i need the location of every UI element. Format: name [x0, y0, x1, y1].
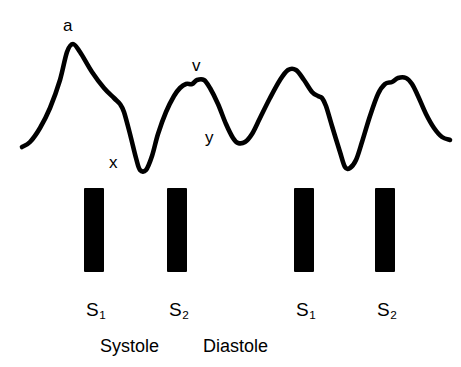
sound-letter: S: [296, 299, 309, 320]
wave-label-y: y: [205, 129, 214, 146]
wave-label-x: x: [109, 154, 118, 171]
heart-sound-bar-s2-first: [167, 188, 187, 272]
sound-letter: S: [169, 299, 182, 320]
sound-letter: S: [86, 299, 99, 320]
sound-subscript: 1: [99, 308, 106, 321]
sound-letter: S: [377, 299, 390, 320]
sound-subscript: 1: [309, 308, 316, 321]
jvp-figure: a x v y S1 S2 S1 S2 Systole Diastole: [0, 0, 461, 367]
jvp-wave-trace: [22, 44, 450, 172]
phase-label-diastole: Diastole: [203, 337, 268, 355]
heart-sound-label-s1-second: S1: [296, 300, 315, 319]
sound-subscript: 2: [182, 308, 189, 321]
heart-sound-label-s1-first: S1: [86, 300, 105, 319]
heart-sound-bar-s1-first: [84, 188, 104, 272]
heart-sound-bar-s2-second: [375, 188, 395, 272]
heart-sound-label-s2-second: S2: [377, 300, 396, 319]
wave-label-a: a: [63, 17, 72, 34]
sound-subscript: 2: [390, 308, 397, 321]
heart-sound-bar-s1-second: [294, 188, 314, 272]
heart-sound-label-s2-first: S2: [169, 300, 188, 319]
wave-label-v: v: [192, 57, 201, 74]
phase-label-systole: Systole: [100, 337, 159, 355]
